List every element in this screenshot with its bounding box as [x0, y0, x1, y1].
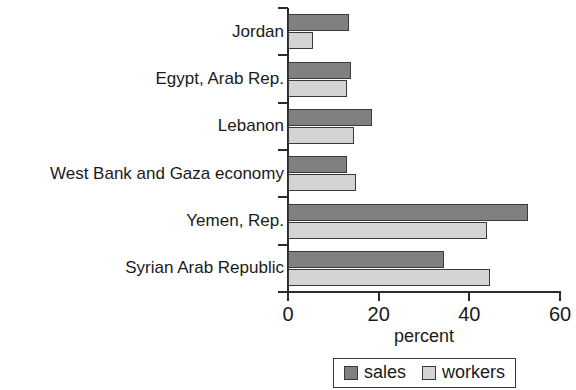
x-axis-tick-label: 0 [282, 303, 293, 326]
legend-swatch-workers-icon [422, 366, 436, 380]
y-axis-tick [278, 196, 288, 198]
y-axis-tick [278, 54, 288, 56]
category-label: West Bank and Gaza economy [50, 164, 284, 184]
legend-label-workers: workers [442, 362, 505, 383]
bar-sales [288, 14, 349, 31]
legend-swatch-sales-icon [344, 366, 358, 380]
bar-sales [288, 156, 347, 173]
bar-workers [288, 269, 490, 286]
y-axis-tick [278, 7, 288, 9]
x-axis-title: percent [288, 326, 560, 347]
category-label: Egypt, Arab Rep. [155, 69, 284, 89]
chart-legend: sales workers [333, 358, 516, 388]
legend-label-sales: sales [364, 362, 406, 383]
category-label: Lebanon [218, 116, 284, 136]
bar-sales [288, 251, 444, 268]
category-label: Syrian Arab Republic [125, 258, 284, 278]
plot-area [288, 8, 560, 292]
bar-workers [288, 32, 313, 49]
y-axis-tick [278, 102, 288, 104]
legend-item-workers: workers [422, 362, 505, 383]
category-label: Yemen, Rep. [186, 211, 284, 231]
bar-workers [288, 174, 356, 191]
x-axis-tick-label: 40 [458, 303, 480, 326]
category-label: Jordan [232, 22, 284, 42]
bar-workers [288, 80, 347, 97]
x-axis-tick [559, 292, 561, 301]
bar-sales [288, 62, 351, 79]
y-axis-tick [278, 244, 288, 246]
x-axis-tick [378, 292, 380, 301]
x-axis-tick-label: 20 [368, 303, 390, 326]
bar-chart: JordanEgypt, Arab Rep.LebanonWest Bank a… [0, 0, 576, 390]
x-axis-tick [468, 292, 470, 301]
bar-workers [288, 222, 487, 239]
bar-sales [288, 109, 372, 126]
x-axis-tick-label: 60 [549, 303, 571, 326]
legend-item-sales: sales [344, 362, 406, 383]
x-axis-tick [287, 292, 289, 301]
bar-sales [288, 204, 528, 221]
bar-workers [288, 127, 354, 144]
y-axis-tick [278, 149, 288, 151]
